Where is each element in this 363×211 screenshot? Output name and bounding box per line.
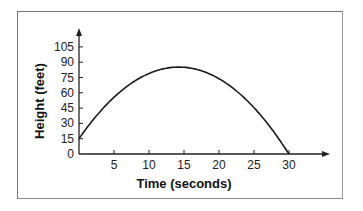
y-tick-label: 15 bbox=[61, 132, 75, 146]
x-tick-label: 20 bbox=[212, 158, 226, 172]
axes bbox=[76, 28, 330, 157]
x-tick-label: 10 bbox=[142, 158, 156, 172]
y-axis-arrow-icon bbox=[76, 28, 82, 36]
y-tick-label: 30 bbox=[61, 116, 75, 130]
x-tick-label: 25 bbox=[247, 158, 261, 172]
y-tick-label: 105 bbox=[54, 40, 74, 54]
height-curve bbox=[79, 67, 289, 154]
y-tick-label: 60 bbox=[61, 86, 75, 100]
x-tick-label: 15 bbox=[177, 158, 191, 172]
y-tick-label: 75 bbox=[61, 71, 75, 85]
height-vs-time-chart: 015304560759010551015202530 Time (second… bbox=[0, 0, 363, 211]
x-axis-arrow-icon bbox=[322, 151, 330, 157]
ticks: 015304560759010551015202530 bbox=[54, 40, 296, 172]
x-axis-title: Time (seconds) bbox=[136, 176, 231, 191]
x-tick-label: 5 bbox=[111, 158, 118, 172]
y-axis-title: Height (feet) bbox=[32, 63, 47, 139]
x-tick-label: 30 bbox=[282, 158, 296, 172]
y-tick-label: 0 bbox=[67, 147, 74, 161]
y-tick-label: 90 bbox=[61, 55, 75, 69]
y-tick-label: 45 bbox=[61, 101, 75, 115]
